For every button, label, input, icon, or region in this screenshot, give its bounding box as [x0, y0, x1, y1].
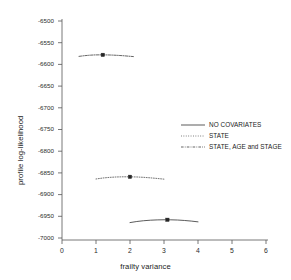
series-line-0: [130, 220, 198, 223]
y-axis-ticks: [58, 21, 62, 238]
x-axis-ticks: [62, 240, 266, 244]
x-axis-title: frailty variance: [0, 262, 291, 271]
y-tick-label: -6700: [24, 105, 54, 111]
y-tick-label: -6650: [24, 83, 54, 89]
x-tick-label: 3: [157, 248, 171, 255]
x-tick-label: 2: [123, 248, 137, 255]
legend-line-samples: [181, 125, 205, 147]
x-tick-label: 4: [191, 248, 205, 255]
data-series-layer: [79, 53, 198, 222]
x-tick-label: 5: [225, 248, 239, 255]
x-tick-label: 0: [55, 248, 69, 255]
y-tick-label: -6550: [24, 40, 54, 46]
chart-figure: -6500-6550-6600-6650-6700-6750-6800-6850…: [0, 0, 291, 280]
y-tick-label: -6800: [24, 148, 54, 154]
legend-item-label: STATE, AGE and STAGE: [209, 144, 282, 150]
series-marker-0: [166, 218, 169, 221]
y-tick-label: -7000: [24, 235, 54, 241]
series-marker-2: [101, 53, 104, 56]
legend-item-label: STATE: [209, 133, 229, 139]
y-axis-title: profile log-likelihood: [16, 116, 25, 185]
x-tick-label: 1: [89, 248, 103, 255]
legend-item-label: NO COVARIATES: [209, 122, 261, 128]
y-tick-label: -6950: [24, 213, 54, 219]
y-tick-label: -6600: [24, 61, 54, 67]
x-tick-label: 6: [259, 248, 273, 255]
y-tick-label: -6500: [24, 18, 54, 24]
y-tick-label: -6850: [24, 170, 54, 176]
series-line-2: [79, 55, 133, 57]
series-marker-1: [128, 175, 131, 178]
y-tick-label: -6750: [24, 126, 54, 132]
y-tick-label: -6900: [24, 191, 54, 197]
